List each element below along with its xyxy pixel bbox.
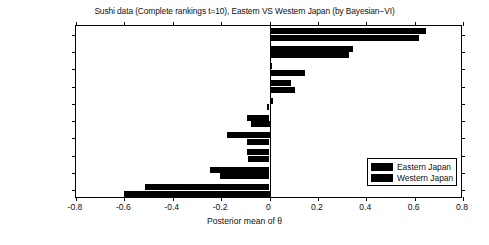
y-tick-right bbox=[461, 35, 465, 36]
bar-tuna-roll-eastern-japan bbox=[270, 80, 291, 86]
y-tick bbox=[72, 138, 76, 139]
x-tick-top bbox=[463, 22, 464, 26]
y-tick-right bbox=[461, 173, 465, 174]
x-tick-top bbox=[415, 22, 416, 26]
x-tick bbox=[221, 197, 222, 201]
bar-squid-western-japan bbox=[270, 70, 306, 76]
bar-fatty-tuna-western-japan bbox=[124, 191, 269, 197]
bar-shrimp-western-japan bbox=[247, 139, 270, 145]
legend-label-western-japan: Western Japan bbox=[397, 173, 453, 183]
y-tick bbox=[72, 173, 76, 174]
x-tick bbox=[463, 197, 464, 201]
x-tick bbox=[318, 197, 319, 201]
x-tick-top bbox=[76, 22, 77, 26]
bar-sea-urchin-eastern-japan bbox=[270, 98, 274, 104]
y-tick bbox=[72, 52, 76, 53]
x-tick-label-7: 0.6 bbox=[394, 202, 434, 212]
bar-sea-eel-eastern-japan bbox=[247, 115, 270, 121]
bar-sea-urchin-western-japan bbox=[267, 104, 270, 110]
x-tick bbox=[173, 197, 174, 201]
chart-title: Sushi data (Complete rankings t=10), Eas… bbox=[0, 6, 489, 16]
y-tick-right bbox=[461, 190, 465, 191]
x-tick-label-6: 0.4 bbox=[345, 202, 385, 212]
bar-egg-western-japan bbox=[270, 52, 350, 58]
y-tick-right bbox=[461, 138, 465, 139]
x-axis-title: Posterior mean of θ bbox=[0, 216, 489, 226]
y-tick-right bbox=[461, 121, 465, 122]
y-tick bbox=[72, 121, 76, 122]
bar-cucumber-western-japan bbox=[270, 35, 420, 41]
bar-sea-eel-western-japan bbox=[251, 121, 269, 127]
x-tick bbox=[415, 197, 416, 201]
bar-cucumber-eastern-japan bbox=[270, 28, 426, 34]
bar-tuna-western-japan bbox=[220, 173, 270, 179]
legend-swatch-western-japan bbox=[371, 174, 393, 182]
legend-item-eastern-japan[interactable]: Eastern Japan bbox=[371, 161, 453, 172]
x-tick-label-1: -0.6 bbox=[103, 202, 143, 212]
x-tick-label-0: -0.8 bbox=[55, 202, 95, 212]
x-tick-label-3: -0.2 bbox=[200, 202, 240, 212]
x-tick-label-5: 0.2 bbox=[297, 202, 337, 212]
x-tick bbox=[270, 197, 271, 201]
x-tick-top bbox=[124, 22, 125, 26]
x-tick-top bbox=[318, 22, 319, 26]
x-tick bbox=[366, 197, 367, 201]
y-tick bbox=[72, 156, 76, 157]
x-tick-top bbox=[366, 22, 367, 26]
x-tick-label-2: -0.4 bbox=[152, 202, 192, 212]
y-tick-right bbox=[461, 87, 465, 88]
y-tick bbox=[72, 69, 76, 70]
y-tick bbox=[72, 190, 76, 191]
y-tick bbox=[72, 35, 76, 36]
x-tick-label-4: 0 bbox=[249, 202, 289, 212]
y-tick-right bbox=[461, 69, 465, 70]
y-tick-right bbox=[461, 104, 465, 105]
bar-egg-eastern-japan bbox=[270, 46, 353, 52]
bar-shrimp-eastern-japan bbox=[227, 132, 269, 138]
x-tick bbox=[124, 197, 125, 201]
x-tick bbox=[76, 197, 77, 201]
legend-label-eastern-japan: Eastern Japan bbox=[397, 162, 451, 172]
x-tick-top bbox=[173, 22, 174, 26]
bar-squid-eastern-japan bbox=[270, 63, 273, 69]
legend-swatch-eastern-japan bbox=[371, 163, 393, 171]
bar-tuna-eastern-japan bbox=[210, 167, 269, 173]
x-tick-top bbox=[270, 22, 271, 26]
legend-item-western-japan[interactable]: Western Japan bbox=[371, 172, 453, 183]
bar-tuna-roll-western-japan bbox=[270, 87, 295, 93]
y-tick bbox=[72, 104, 76, 105]
y-tick-right bbox=[461, 156, 465, 157]
y-tick bbox=[72, 87, 76, 88]
figure-root: Sushi data (Complete rankings t=10), Eas… bbox=[0, 0, 489, 245]
x-tick-label-8: 0.8 bbox=[442, 202, 482, 212]
bar-salmon-roe-western-japan bbox=[248, 156, 270, 162]
x-tick-top bbox=[221, 22, 222, 26]
y-tick-right bbox=[461, 52, 465, 53]
legend[interactable]: Eastern Japan Western Japan bbox=[367, 158, 457, 186]
bar-salmon-roe-eastern-japan bbox=[247, 149, 269, 155]
bar-fatty-tuna-eastern-japan bbox=[145, 184, 270, 190]
